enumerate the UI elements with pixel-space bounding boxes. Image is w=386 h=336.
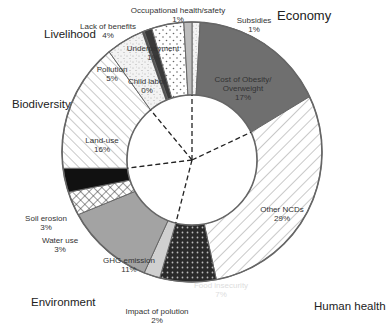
slice-label-soil-erosion: Soil erosion3% [25, 214, 67, 232]
category-label-human-health: Human health [314, 300, 386, 312]
slice-label-child-labor: Child labor0% [128, 77, 166, 95]
slice-label-lack-of-benefits: Lack of benefits4% [80, 22, 136, 40]
slice-label-other-ncds: Other NCDs29% [260, 205, 304, 223]
slice-label-obesity: Cost of Obesity/Overweight17% [215, 75, 272, 102]
slice-label-food-insecurity: Food insecurity7% [194, 281, 248, 299]
slice-label-impact-of-pollution: Impact of polution2% [125, 307, 188, 325]
category-label-economy: Economy [277, 8, 331, 23]
slice-label-water-use: Water use3% [42, 236, 78, 254]
slice-label-pollution: Pollution5% [97, 65, 128, 83]
category-label-environment: Environment [31, 296, 96, 308]
category-label-biodiversity: Biodiversity [12, 98, 71, 110]
slice-label-ghg-emission: GHG emission11% [103, 256, 155, 274]
slice-label-occupational-health: Occupational health/safety1% [131, 6, 225, 24]
slice-label-subsidies: Subsidies1% [237, 16, 272, 34]
slice-label-underpayment: Underpayment1% [127, 44, 179, 62]
slice-label-land-use: Land-use16% [85, 136, 118, 154]
